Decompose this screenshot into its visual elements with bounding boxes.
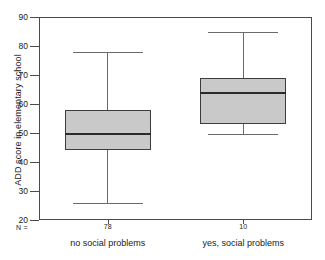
n-count-value: 78	[78, 223, 138, 230]
lower-whisker-cap	[208, 134, 278, 135]
box-iqr	[65, 110, 151, 151]
y-axis-tick-label: 40	[0, 157, 28, 167]
y-axis-tick	[30, 75, 39, 76]
y-axis-tick	[30, 162, 39, 163]
y-axis-tick	[30, 191, 39, 192]
n-count-value: 10	[213, 223, 273, 230]
y-axis-tick	[30, 46, 39, 47]
median-line	[200, 92, 286, 94]
y-axis-tick-label: 70	[0, 70, 28, 80]
box-iqr	[200, 78, 286, 124]
upper-whisker-cap	[208, 32, 278, 33]
box-plot-1	[65, 0, 151, 220]
y-axis-tick-label: 90	[0, 12, 28, 22]
upper-whisker-line	[243, 32, 244, 78]
box-plot-2	[200, 0, 286, 220]
y-axis-tick-label: 30	[0, 186, 28, 196]
median-line	[65, 133, 151, 135]
x-axis-category-label: yes, social problems	[168, 238, 318, 248]
lower-whisker-line	[243, 124, 244, 134]
y-axis-tick	[30, 133, 39, 134]
x-axis-tick	[108, 220, 109, 224]
box-plot-chart: ADD score in elementary school 908070605…	[0, 0, 325, 260]
lower-whisker-cap	[73, 203, 143, 204]
y-axis-tick-label: 80	[0, 41, 28, 51]
y-axis-tick	[30, 220, 39, 221]
x-axis-tick	[243, 220, 244, 224]
y-axis-tick-label: 50	[0, 128, 28, 138]
y-axis-tick	[30, 17, 39, 18]
upper-whisker-cap	[73, 52, 143, 53]
x-axis-category-label: no social problems	[33, 238, 183, 248]
lower-whisker-line	[107, 150, 108, 202]
y-axis-tick-label: 60	[0, 99, 28, 109]
upper-whisker-line	[107, 52, 108, 110]
y-axis-tick	[30, 104, 39, 105]
n-legend-label: N =	[16, 224, 28, 231]
